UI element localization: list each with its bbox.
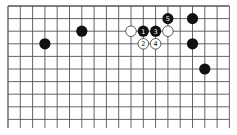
white-stone-move-2[interactable]: 2 xyxy=(138,39,149,50)
black-stone-icon xyxy=(76,26,87,37)
grid-lines xyxy=(8,6,229,128)
white-stone[interactable] xyxy=(126,26,137,37)
black-stone-icon xyxy=(187,38,198,49)
black-stone-icon xyxy=(39,38,50,49)
black-stone[interactable] xyxy=(39,38,50,49)
white-stone-icon xyxy=(126,26,137,37)
black-stone[interactable] xyxy=(199,63,210,74)
go-board[interactable]: 13245 xyxy=(0,0,237,135)
black-stone[interactable] xyxy=(76,26,87,37)
black-stone-icon xyxy=(187,13,198,24)
move-number-label: 5 xyxy=(166,15,170,23)
black-stone-move-3[interactable]: 3 xyxy=(150,26,161,37)
black-stone-icon xyxy=(199,63,210,74)
black-stone-move-1[interactable]: 1 xyxy=(138,26,149,37)
white-stone[interactable] xyxy=(163,26,174,37)
move-number-label: 1 xyxy=(141,28,145,36)
black-stone[interactable] xyxy=(187,38,198,49)
black-stone-move-5[interactable]: 5 xyxy=(162,13,173,24)
black-stone[interactable] xyxy=(187,13,198,24)
move-number-label: 3 xyxy=(154,28,158,36)
white-stone-icon xyxy=(163,26,174,37)
go-board-canvas[interactable]: 13245 xyxy=(0,0,237,135)
move-number-label: 2 xyxy=(141,40,145,48)
move-number-label: 4 xyxy=(154,40,158,48)
white-stone-move-4[interactable]: 4 xyxy=(150,39,161,50)
